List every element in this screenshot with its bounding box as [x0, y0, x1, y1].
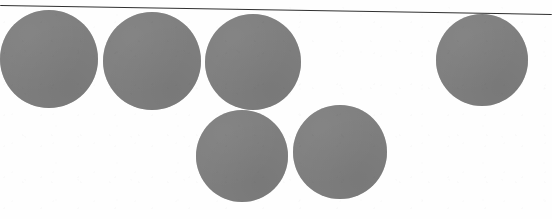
circle-5: [196, 110, 288, 202]
horizontal-rule: [0, 5, 552, 15]
circle-4: [436, 14, 528, 106]
circle-2: [103, 12, 201, 110]
circle-3: [205, 14, 301, 110]
circle-6: [293, 105, 387, 199]
shape-layer: [0, 0, 552, 219]
figure-canvas: Circle Diagram Six solid gray circles ar…: [0, 0, 552, 219]
circle-1: [0, 10, 98, 108]
